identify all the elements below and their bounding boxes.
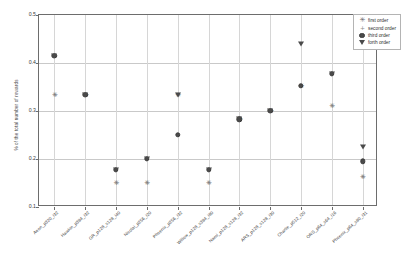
legend-item: +second order [357, 24, 396, 31]
y-axis-tick-label: 0.5 [14, 11, 36, 17]
triangle-down-icon [329, 71, 335, 76]
y-axis-tick [36, 111, 39, 112]
gridline-horizontal [39, 111, 376, 112]
circle-dot-icon [360, 159, 365, 164]
x-axis-tick-labels: Aeon_p320_i32Hawkin_p384_i32GR_p128_s128… [0, 206, 407, 269]
scatter-chart-figure: % of the total number of rewards 0.10.20… [0, 0, 407, 269]
circle-dot-icon [359, 33, 364, 38]
gridline-vertical [85, 15, 86, 205]
x-axis-tick-label: Hawkin_p384_i32 [60, 210, 90, 238]
plus-icon: + [52, 93, 56, 97]
legend-marker [357, 33, 367, 38]
x-axis-tick-label: ORS_p64_s64_i16 [305, 210, 337, 240]
triangle-down-icon [359, 40, 365, 45]
star-icon: ✳ [360, 18, 365, 23]
legend-label: first order [367, 18, 388, 23]
x-axis-tick-label: GR_p128_s128_i40 [88, 210, 122, 241]
gridline-horizontal [39, 159, 376, 160]
gridline-horizontal [39, 63, 376, 64]
gridline-vertical [116, 15, 117, 205]
gridline-vertical [54, 15, 55, 205]
triangle-down-icon [267, 108, 273, 113]
gridline-vertical [239, 15, 240, 205]
legend-item: third order [357, 32, 396, 39]
plus-icon: + [330, 104, 334, 108]
x-axis-tick-label: ARS_p128_s128_i30 [240, 210, 275, 243]
triangle-down-icon [51, 53, 57, 58]
circle-dot-icon [175, 132, 180, 137]
chart-legend: ✳first order+second orderthird orderfort… [353, 14, 401, 50]
y-axis-tick-label: 0.4 [14, 59, 36, 65]
plus-icon: + [361, 175, 365, 179]
legend-marker [357, 40, 367, 45]
triangle-down-icon [144, 157, 150, 162]
triangle-down-icon [298, 41, 304, 46]
legend-item: forth order [357, 39, 396, 46]
plot-area: ✳✳✳✳✳✳✳✳✳✳✳+++++++++++ [38, 14, 377, 206]
y-axis-tick [36, 63, 39, 64]
triangle-down-icon [82, 92, 88, 97]
gridline-vertical [147, 15, 148, 205]
triangle-down-icon [206, 168, 212, 173]
legend-label: forth order [367, 40, 390, 45]
plus-icon: + [145, 181, 149, 185]
y-axis-tick [36, 15, 39, 16]
triangle-down-icon [175, 93, 181, 98]
x-axis-tick-label: Phoenix_p64_s80_i31 [331, 210, 368, 244]
plus-icon: + [207, 181, 211, 185]
x-axis-tick-label: Nicolai_p256_i20 [123, 210, 153, 237]
legend-label: second order [367, 26, 396, 31]
gridline-vertical [332, 15, 333, 205]
legend-marker: + [357, 26, 367, 30]
triangle-down-icon [236, 117, 242, 122]
triangle-down-icon [360, 144, 366, 149]
y-axis-tick-label: 0.2 [14, 155, 36, 161]
triangle-down-icon [113, 168, 119, 173]
legend-marker: ✳ [357, 18, 367, 23]
y-axis-tick [36, 159, 39, 160]
gridline-vertical [178, 15, 179, 205]
plus-icon: + [360, 26, 364, 30]
plus-icon: + [114, 181, 118, 185]
y-axis-tick-label: 0.3 [14, 107, 36, 113]
x-axis-tick-label: Phoenix_p256_i32 [151, 210, 183, 239]
x-axis-tick-label: Aeon_p320_i32 [33, 210, 60, 235]
gridline-vertical [209, 15, 210, 205]
legend-label: third order [367, 33, 390, 38]
x-axis-tick-label: Charlie_p512_i20 [276, 210, 306, 238]
